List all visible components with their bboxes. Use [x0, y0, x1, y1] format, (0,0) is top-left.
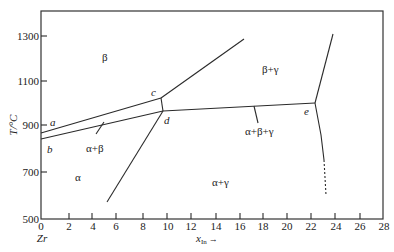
region-alpha: α	[75, 171, 81, 183]
boundary-e-lower	[315, 103, 324, 160]
leader-alpha-beta	[96, 122, 104, 134]
point-a-label: a	[50, 116, 56, 128]
x-tick-28: 28	[379, 220, 391, 232]
boundary-e-lower-dashed	[324, 160, 326, 195]
phase-diagram: 500 700 900 1100 1300 T/°C 0 2 4 6 8 10 …	[0, 0, 394, 252]
x-tick-22: 22	[306, 220, 317, 232]
region-beta: β	[102, 51, 108, 63]
leader-alpha-beta-gamma	[254, 106, 258, 123]
boundary-c-d	[161, 98, 163, 111]
boundary-d-lower	[107, 111, 163, 202]
x-tick-26: 26	[355, 220, 367, 232]
point-b-label: b	[47, 143, 53, 155]
x-tick-12: 12	[186, 220, 197, 232]
boundary-c-upper	[161, 39, 244, 98]
x-tick-24: 24	[331, 220, 343, 232]
y-tick-900: 900	[23, 119, 40, 131]
y-tick-1300: 1300	[17, 30, 40, 42]
x-axis-arrow: →	[209, 234, 218, 244]
boundary-e-upper	[315, 34, 333, 103]
x-tick-18: 18	[258, 220, 270, 232]
region-alpha-beta: α+β	[86, 142, 104, 154]
x-axis: 0 2 4 6 8 10 12 14 16 18 20 22 24 26 28 …	[37, 213, 390, 246]
x-tick-2: 2	[66, 220, 72, 232]
y-axis-title: T/°C	[7, 114, 19, 136]
region-alpha-gamma: α+γ	[212, 176, 229, 188]
region-labels: β β+γ α+β α+β+γ α α+γ	[75, 51, 279, 188]
point-e-label: e	[304, 105, 309, 117]
y-tick-700: 700	[23, 166, 40, 178]
y-tick-1100: 1100	[17, 75, 39, 87]
point-d-label: d	[164, 114, 170, 126]
region-alpha-beta-gamma: α+β+γ	[245, 125, 274, 137]
y-tick-500: 500	[23, 213, 40, 225]
region-beta-gamma: β+γ	[262, 63, 279, 75]
boundary-d-e	[163, 103, 315, 111]
x-tick-16: 16	[235, 220, 247, 232]
phase-boundaries	[41, 34, 333, 202]
x-axis-title-sub: In	[201, 238, 207, 246]
x-axis-title: xIn→	[195, 232, 218, 246]
x-tick-0: 0	[38, 220, 44, 232]
x-tick-6: 6	[113, 220, 119, 232]
x-tick-4: 4	[90, 220, 96, 232]
x-tick-8: 8	[140, 220, 146, 232]
zr-origin-label: Zr	[37, 232, 48, 244]
x-tick-14: 14	[211, 220, 223, 232]
x-tick-10: 10	[163, 220, 175, 232]
x-tick-20: 20	[282, 220, 294, 232]
point-c-label: c	[151, 86, 156, 98]
